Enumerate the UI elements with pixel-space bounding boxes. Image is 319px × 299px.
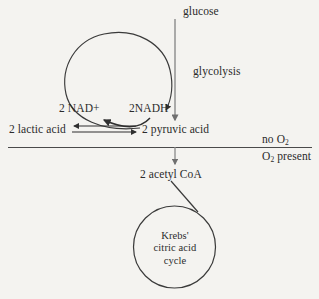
label-nad-plus: 2 NAD+ bbox=[59, 102, 100, 115]
label-krebs-cycle: Krebs' citric acid cycle bbox=[134, 230, 216, 267]
label-no-oxygen-text: no O bbox=[262, 133, 285, 145]
label-oxygen-present: O2 present bbox=[262, 150, 311, 163]
label-oxygen-present-subscript: 2 bbox=[270, 155, 274, 164]
label-nadh: 2NADH bbox=[129, 102, 168, 115]
label-acetyl-coa: 2 acetyl CoA bbox=[140, 168, 202, 181]
label-glycolysis: glycolysis bbox=[193, 65, 241, 78]
label-krebs-line-1: Krebs' bbox=[134, 230, 216, 242]
label-krebs-line-2: citric acid bbox=[134, 242, 216, 254]
label-pyruvic-acid: 2 pyruvic acid bbox=[142, 123, 209, 136]
label-oxygen-present-suffix: present bbox=[274, 150, 311, 162]
label-krebs-line-3: cycle bbox=[134, 255, 216, 267]
cellular-respiration-diagram: glucose glycolysis 2 NAD+ 2NADH 2 lactic… bbox=[0, 0, 319, 299]
label-lactic-acid: 2 lactic acid bbox=[9, 123, 66, 136]
label-no-oxygen-subscript: 2 bbox=[285, 138, 289, 147]
label-no-oxygen: no O2 bbox=[262, 133, 289, 146]
label-glucose: glucose bbox=[183, 5, 219, 18]
